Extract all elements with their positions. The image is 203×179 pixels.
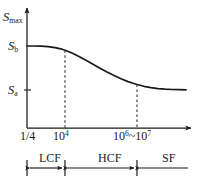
y-axis-label-subscript: max bbox=[9, 16, 22, 25]
fatigue-curve-figure: Smax Sb Sa 1/4 104 106~107 LCF HCF SF bbox=[0, 0, 203, 179]
x-tick-label-1e4: 104 bbox=[53, 130, 69, 142]
y-tick-label-sa: Sa bbox=[8, 84, 18, 98]
region-label-lcf: LCF bbox=[39, 152, 61, 164]
x-tick-range-tail: ~10 bbox=[129, 129, 148, 143]
y-tick-sb-subscript: b bbox=[14, 45, 18, 54]
region-hcf-text: HCF bbox=[98, 151, 121, 165]
region-label-sf: SF bbox=[162, 152, 175, 164]
region-lcf-text: LCF bbox=[39, 151, 61, 165]
y-tick-label-sb: Sb bbox=[8, 40, 18, 54]
x-tick-range-base: 10 bbox=[113, 129, 125, 143]
sn-curve bbox=[27, 46, 186, 90]
x-tick-range-exponent-2: 7 bbox=[147, 129, 151, 138]
x-tick-1e4-exponent: 4 bbox=[65, 129, 69, 138]
x-tick-label-quarter: 1/4 bbox=[20, 130, 35, 142]
y-axis-label: Smax bbox=[3, 11, 23, 25]
x-tick-quarter-text: 1/4 bbox=[20, 129, 35, 143]
x-tick-1e4-base: 10 bbox=[53, 129, 65, 143]
region-label-hcf: HCF bbox=[98, 152, 121, 164]
x-tick-label-range: 106~107 bbox=[113, 130, 151, 142]
region-sf-text: SF bbox=[162, 151, 175, 165]
y-tick-sa-subscript: a bbox=[14, 89, 17, 98]
